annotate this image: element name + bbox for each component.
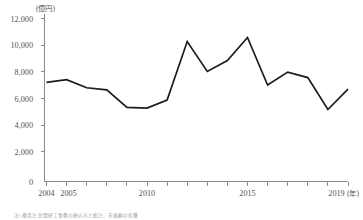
y-axis-ticks xyxy=(41,19,45,152)
y-tick-label-10000: 10,000 xyxy=(10,41,33,50)
y-tick-label-12000: 12,000 xyxy=(10,15,33,24)
y-axis-unit-label: (億円) xyxy=(36,4,55,13)
series-line-path xyxy=(47,38,349,110)
chart-canvas: (億円) 12,000 10,000 8,000 6,000 4,000 2,0… xyxy=(0,0,363,220)
y-tick-label-0: 0 xyxy=(29,178,33,187)
source-note: 注) 構造計 民間研工事費の総のみと統計、市価額の各種 xyxy=(14,212,138,219)
x-tick-label-2019: 2019 xyxy=(328,189,344,198)
x-tick-label-2010: 2010 xyxy=(139,189,155,198)
y-tick-label-8000: 8,000 xyxy=(15,68,33,77)
x-axis-unit-label: (年) xyxy=(347,189,359,198)
x-tick-label-2004: 2004 xyxy=(38,189,54,198)
x-tick-label-2015: 2015 xyxy=(239,189,255,198)
x-tick-label-2005: 2005 xyxy=(60,189,76,198)
y-tick-label-6000: 6,000 xyxy=(15,95,33,104)
x-axis-ticks xyxy=(47,182,349,187)
y-tick-label-4000: 4,000 xyxy=(15,121,33,130)
y-tick-label-2000: 2,000 xyxy=(15,148,33,157)
line-chart: (億円) 12,000 10,000 8,000 6,000 4,000 2,0… xyxy=(0,0,363,220)
